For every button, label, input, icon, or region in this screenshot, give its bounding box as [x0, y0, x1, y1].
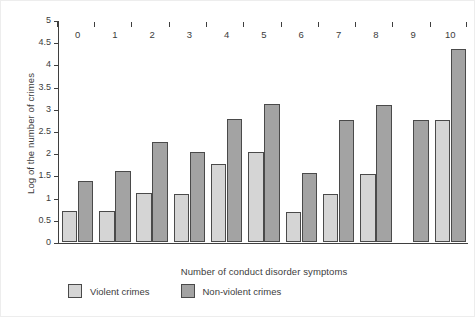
bar: [62, 211, 78, 242]
x-tick-label: 8: [356, 29, 396, 40]
y-tick-label: 5: [46, 15, 51, 25]
x-tick: [57, 22, 58, 27]
x-tick-label: 6: [281, 29, 321, 40]
x-tick: [94, 22, 95, 27]
x-tick: [430, 22, 431, 27]
legend-item[interactable]: Non-violent crimes: [181, 284, 282, 298]
bar-chart-figure: Log of the number of crimes 00.511.522.5…: [0, 0, 475, 317]
y-axis-title: Log of the number of crimes: [25, 34, 36, 234]
bar: [360, 174, 376, 242]
x-tick: [281, 22, 282, 27]
y-tick-label: 4.5: [38, 37, 51, 47]
legend-label: Violent crimes: [90, 286, 150, 297]
y-tick: 4.5: [54, 43, 58, 44]
plot-area: 00.511.522.533.544.55 012345678910: [58, 21, 468, 243]
x-tick: [243, 22, 244, 27]
bar: [302, 173, 318, 242]
x-tick-label: 7: [319, 29, 359, 40]
legend-swatch-icon: [68, 284, 82, 298]
y-tick-label: 0: [46, 237, 51, 247]
y-tick-label: 2: [46, 148, 51, 158]
bar: [339, 120, 355, 242]
bar: [435, 120, 451, 242]
y-tick-label: 1: [46, 193, 51, 203]
y-tick: 0.5: [54, 221, 58, 222]
y-tick-label: 2.5: [38, 126, 51, 136]
bar: [286, 212, 302, 242]
x-tick: [131, 22, 132, 27]
bar: [248, 152, 264, 242]
x-axis-line: [58, 243, 468, 244]
y-tick: 2: [54, 154, 58, 155]
bar: [78, 181, 94, 242]
bar: [413, 120, 429, 242]
x-tick: [318, 22, 319, 27]
legend-swatch-icon: [181, 284, 195, 298]
x-tick-label: 0: [58, 29, 98, 40]
y-tick-label: 0.5: [38, 215, 51, 225]
x-axis-title: Number of conduct disorder symptoms: [58, 266, 470, 277]
bar: [227, 119, 243, 242]
legend-item[interactable]: Violent crimes: [68, 284, 150, 298]
bar: [190, 152, 206, 242]
x-tick: [355, 22, 356, 27]
y-tick-label: 1.5: [38, 170, 51, 180]
x-tick-label: 1: [95, 29, 135, 40]
bar: [376, 105, 392, 242]
bar: [115, 171, 131, 242]
x-tick-label: 5: [244, 29, 284, 40]
x-tick-label: 10: [430, 29, 470, 40]
y-tick-label: 3: [46, 104, 51, 114]
x-tick-label: 4: [207, 29, 247, 40]
x-tick: [169, 22, 170, 27]
bar: [323, 194, 339, 242]
x-tick: [466, 22, 467, 27]
x-tick: [206, 22, 207, 27]
bar: [99, 211, 115, 242]
y-tick-label: 4: [46, 59, 51, 69]
y-tick: 4: [54, 65, 58, 66]
chart-legend: Violent crimesNon-violent crimes: [68, 284, 303, 298]
x-tick-label: 2: [132, 29, 172, 40]
x-tick-label: 3: [169, 29, 209, 40]
y-tick: 0: [54, 243, 58, 244]
y-tick: 3.5: [54, 88, 58, 89]
bar: [451, 49, 467, 242]
legend-label: Non-violent crimes: [203, 286, 282, 297]
y-tick: 2.5: [54, 132, 58, 133]
bar: [152, 142, 168, 242]
bar: [264, 104, 280, 242]
y-tick-label: 3.5: [38, 82, 51, 92]
x-tick: [392, 22, 393, 27]
y-tick: 3: [54, 110, 58, 111]
x-tick-label: 9: [393, 29, 433, 40]
y-axis-line: [58, 21, 59, 243]
y-tick: 1: [54, 199, 58, 200]
bar: [174, 194, 190, 242]
y-tick: 1.5: [54, 176, 58, 177]
bar: [136, 193, 152, 242]
bar: [211, 164, 227, 242]
